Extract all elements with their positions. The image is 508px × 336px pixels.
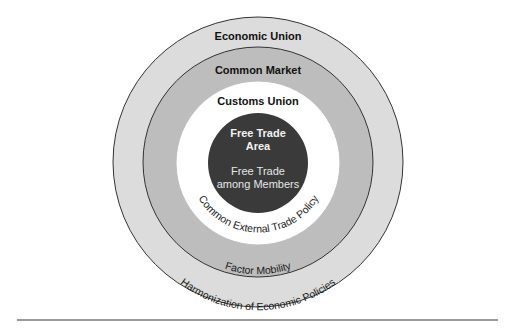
- horizontal-rule: [17, 319, 498, 321]
- label-common-market: Common Market: [215, 64, 302, 76]
- feature-free-trade-line2: among Members: [217, 178, 300, 190]
- economic-integration-diagram: Economic Union Common Market Customs Uni…: [0, 0, 508, 336]
- label-free-trade-area-line1: Free Trade: [230, 127, 286, 139]
- feature-free-trade-line1: Free Trade: [231, 165, 285, 177]
- label-economic-union: Economic Union: [215, 30, 302, 42]
- label-free-trade-area-line2: Area: [246, 140, 271, 152]
- label-customs-union: Customs Union: [217, 95, 299, 107]
- diagram-stage: Economic Union Common Market Customs Uni…: [0, 0, 508, 336]
